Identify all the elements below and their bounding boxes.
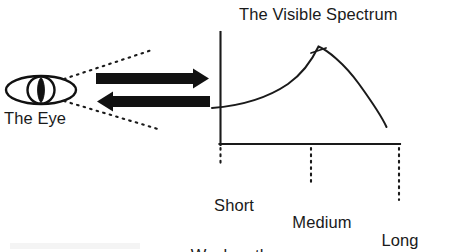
eye-pupil	[38, 78, 45, 103]
spectrum-diagram: The Visible Spectrum The Eye Short Wavle…	[0, 0, 455, 252]
axis-label-long-line1: Long	[345, 232, 455, 249]
light-path-arrows	[96, 69, 210, 112]
page-title: The Visible Spectrum	[239, 6, 398, 23]
axis-label-long: Long Wavlengths	[345, 198, 455, 252]
scan-artifact	[10, 243, 140, 249]
spectrum-curve	[212, 47, 387, 128]
eye-label: The Eye	[4, 110, 66, 127]
spectrum-curve-path	[212, 47, 387, 128]
arrow-left	[97, 92, 210, 112]
eye-icon	[6, 76, 76, 104]
sight-lines	[64, 50, 158, 129]
chart-axes	[220, 32, 401, 145]
arrow-right	[96, 69, 209, 89]
